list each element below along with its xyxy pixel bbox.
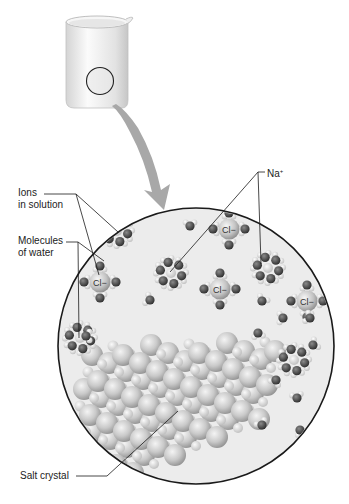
dissolving-salt-diagram: Cl−Cl−Cl−Cl− Ions in solution Molecules … bbox=[0, 0, 349, 504]
magnified-view: Cl−Cl−Cl−Cl− bbox=[58, 208, 334, 502]
water-molecule bbox=[99, 220, 111, 234]
beaker-zoom-marker bbox=[87, 68, 114, 95]
beaker-icon bbox=[66, 16, 133, 108]
label-ions-line2: in solution bbox=[18, 199, 63, 211]
label-ions-in-solution: Ions in solution bbox=[18, 187, 63, 211]
chloride-label: Cl− bbox=[93, 278, 107, 288]
chloride-label: Cl− bbox=[222, 225, 236, 235]
zoom-arrow-icon bbox=[112, 104, 170, 210]
label-salt-crystal: Salt crystal bbox=[20, 470, 69, 482]
label-molecules-of-water: Molecules of water bbox=[18, 235, 63, 259]
label-ions-line1: Ions bbox=[18, 187, 63, 199]
label-water-line2: of water bbox=[18, 247, 63, 259]
label-water-line1: Molecules bbox=[18, 235, 63, 247]
label-sodium-charge: + bbox=[280, 168, 284, 174]
chloride-label: Cl− bbox=[213, 285, 227, 295]
label-sodium-ion: Na+ bbox=[267, 165, 283, 180]
chloride-label: Cl− bbox=[300, 297, 314, 307]
label-sodium-symbol: Na bbox=[267, 168, 280, 179]
